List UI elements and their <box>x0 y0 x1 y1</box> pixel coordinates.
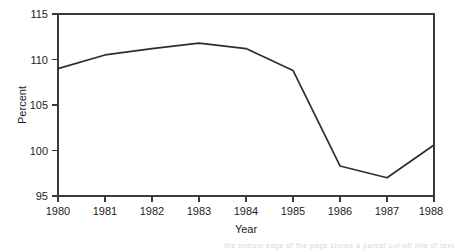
data-series-percent <box>58 43 434 178</box>
y-tick-label-110: 110 <box>30 54 48 66</box>
x-tick-label-1980: 1980 <box>46 205 70 217</box>
x-tick-label-1988: 1988 <box>419 205 443 217</box>
y-axis-title: Percent <box>16 86 28 124</box>
x-axis-tick-labels: 1980 1981 1982 1983 1984 1985 1986 1987 … <box>46 205 443 217</box>
x-axis-ticks <box>58 196 434 202</box>
chart-figure: 115 110 105 100 95 1980 1981 1982 1983 1… <box>0 0 458 250</box>
x-tick-label-1983: 1983 <box>187 205 211 217</box>
x-tick-label-1987: 1987 <box>375 205 399 217</box>
x-tick-label-1985: 1985 <box>281 205 305 217</box>
x-tick-label-1981: 1981 <box>93 205 117 217</box>
y-tick-label-115: 115 <box>30 8 48 20</box>
plot-frame <box>58 14 434 196</box>
y-tick-label-95: 95 <box>36 190 48 202</box>
x-axis-title: Year <box>235 223 258 235</box>
y-axis-ticks <box>52 14 58 196</box>
line-chart: 115 110 105 100 95 1980 1981 1982 1983 1… <box>0 0 458 250</box>
x-tick-label-1982: 1982 <box>140 205 164 217</box>
x-tick-label-1986: 1986 <box>328 205 352 217</box>
x-tick-label-1984: 1984 <box>234 205 258 217</box>
y-tick-label-100: 100 <box>30 145 48 157</box>
y-axis-tick-labels: 115 110 105 100 95 <box>30 8 48 202</box>
axis-frame-path <box>58 14 434 196</box>
y-tick-label-105: 105 <box>30 99 48 111</box>
scan-artifact-text: the bottom edge of the page shows a part… <box>0 242 458 250</box>
